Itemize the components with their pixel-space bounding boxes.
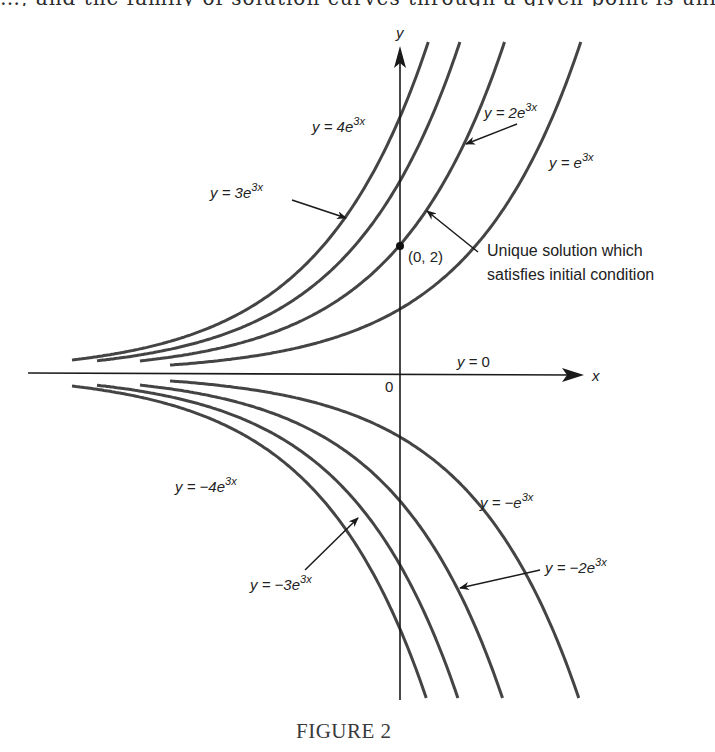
label-minus-e3x: y = −e3x	[479, 491, 534, 511]
label-minus-e3x-text: y = −e	[479, 494, 522, 511]
arrow-2e	[466, 124, 517, 144]
y-zero-text: = 0	[465, 353, 490, 370]
label-minus-4e3x-text: y = −4e	[174, 478, 225, 495]
solution-curve-2	[140, 42, 505, 361]
solution-curves	[72, 42, 581, 698]
point-label: (0, 2)	[408, 248, 443, 265]
solution-curves-figure: y x 0 y = 0 (0, 2) Unique solution which…	[0, 0, 715, 752]
annotation-line-2: satisfies initial condition	[487, 266, 654, 283]
origin-label: 0	[385, 378, 393, 395]
label-3e3x-exponent: 3x	[251, 181, 263, 193]
label-4e3x-exponent: 3x	[353, 115, 365, 127]
label-4e3x: y = 4e3x	[311, 115, 365, 135]
x-axis-equation-label: y = 0	[456, 353, 490, 370]
label-minus-3e3x-exponent: 3x	[300, 573, 312, 585]
initial-condition-point	[396, 242, 404, 250]
label-minus-2e3x: y = −2e3x	[544, 556, 607, 576]
arrow-unique-solution	[427, 211, 478, 252]
label-minus-4e3x: y = −4e3x	[174, 475, 237, 495]
label-minus-4e3x-exponent: 3x	[225, 475, 237, 487]
arrow-minus-3e	[305, 518, 358, 570]
label-e3x-text: y = e	[548, 154, 582, 171]
label-minus-2e3x-text: y = −2e	[544, 559, 595, 576]
label-minus-3e3x: y = −3e3x	[249, 573, 312, 593]
label-3e3x: y = 3e3x	[209, 181, 263, 201]
label-e3x: y = e3x	[548, 151, 594, 171]
label-minus-e3x-exponent: 3x	[522, 491, 534, 503]
x-axis-label: x	[591, 367, 600, 384]
figure-caption: FIGURE 2	[296, 719, 392, 743]
annotation-line-1: Unique solution which	[487, 242, 643, 259]
solution-curve-4	[72, 42, 428, 360]
label-minus-2e3x-exponent: 3x	[595, 556, 607, 568]
label-e3x-exponent: 3x	[582, 151, 594, 163]
label-3e3x-text: y = 3e	[209, 184, 251, 201]
label-2e3x-exponent: 3x	[525, 101, 537, 113]
arrow-3e	[292, 200, 346, 218]
solution-curve-3	[97, 42, 460, 361]
label-minus-3e3x-text: y = −3e	[249, 576, 300, 593]
solution-curve-minus-2	[140, 385, 503, 698]
label-4e3x-text: y = 4e	[311, 118, 353, 135]
y-axis-label: y	[395, 24, 405, 41]
label-2e3x: y = 2e3x	[483, 101, 537, 121]
label-2e3x-text: y = 2e	[483, 104, 525, 121]
x-axis	[28, 373, 572, 375]
solution-curve-minus-4	[72, 386, 426, 698]
solution-curve-minus-3	[97, 385, 458, 698]
